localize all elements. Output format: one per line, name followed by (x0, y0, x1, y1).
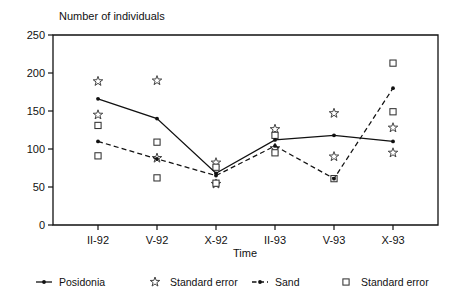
y-tick-label: 150 (27, 105, 45, 117)
error-markers-sand (95, 60, 396, 186)
data-point (273, 144, 277, 148)
x-tick-label: X-93 (381, 234, 404, 246)
error-marker-square (272, 150, 278, 156)
data-point (391, 86, 395, 90)
y-tick-label: 200 (27, 67, 45, 79)
chart-figure: Number of individuals 050100150200250 II… (0, 0, 458, 301)
data-point (391, 140, 395, 144)
x-axis: II-92V-92X-92II-93V-93X-93 (87, 225, 405, 246)
x-tick-label: II-93 (264, 234, 286, 246)
y-tick-label: 50 (33, 181, 45, 193)
y-axis-title: Number of individuals (59, 10, 165, 22)
legend-item-label: Standard error (361, 276, 429, 288)
legend-item[interactable]: Standard error (150, 276, 238, 288)
error-markers-posidonia (93, 76, 398, 188)
error-marker-star (93, 76, 103, 85)
error-marker-square (154, 175, 160, 181)
error-marker-star (93, 110, 103, 119)
y-axis: 050100150200250 (27, 29, 53, 231)
error-marker-square (213, 180, 219, 186)
x-tick-label: X-92 (204, 234, 227, 246)
error-marker-square (390, 60, 396, 66)
x-axis-title: Time (233, 247, 257, 259)
x-tick-label: V-92 (146, 234, 169, 246)
data-point (332, 133, 336, 137)
error-marker-square (95, 122, 101, 128)
plot-frame (53, 35, 438, 225)
x-tick-label: V-93 (323, 234, 346, 246)
error-marker-square (95, 153, 101, 159)
legend-item-label: Standard error (170, 276, 238, 288)
legend-star-icon (150, 277, 160, 286)
series-points-sand (96, 86, 395, 180)
chart-svg: Number of individuals 050100150200250 II… (0, 0, 458, 301)
legend-item[interactable]: Posidonia (36, 276, 105, 288)
legend-dot-icon (42, 280, 46, 284)
error-marker-square (154, 139, 160, 145)
legend-item-label: Sand (275, 276, 300, 288)
data-point (214, 171, 218, 175)
data-point (273, 138, 277, 142)
data-point (96, 97, 100, 101)
data-point (155, 157, 159, 161)
error-marker-square (272, 132, 278, 138)
x-tick-label: II-92 (87, 234, 109, 246)
legend-item-label: Posidonia (59, 276, 105, 288)
legend-item[interactable]: Standard error (343, 276, 429, 288)
legend-dot-icon (258, 280, 262, 284)
data-point (155, 117, 159, 121)
error-marker-star (152, 76, 162, 85)
error-marker-square (390, 109, 396, 115)
chart-legend: PosidoniaStandard errorSandStandard erro… (36, 276, 429, 288)
legend-square-icon (343, 279, 349, 285)
error-marker-star (329, 152, 339, 161)
series-line-posidonia (98, 99, 393, 173)
legend-item[interactable]: Sand (252, 276, 300, 288)
error-marker-star (329, 108, 339, 117)
data-point (332, 177, 336, 181)
series-line-sand (98, 88, 393, 178)
data-point (96, 140, 100, 144)
y-tick-label: 100 (27, 143, 45, 155)
y-tick-label: 0 (39, 219, 45, 231)
error-marker-square (213, 164, 219, 170)
y-tick-label: 250 (27, 29, 45, 41)
error-marker-star (388, 123, 398, 132)
series-points-posidonia (96, 97, 395, 175)
error-marker-star (388, 148, 398, 157)
